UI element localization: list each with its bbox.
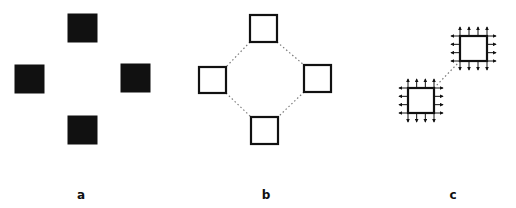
dotted-link <box>277 42 304 65</box>
filled-square <box>15 65 44 93</box>
outline-square <box>304 65 331 92</box>
panel-label-b: b <box>262 189 271 201</box>
dotted-link <box>226 93 251 117</box>
diagram-canvas <box>0 0 516 208</box>
outline-square <box>250 15 277 42</box>
filled-square <box>68 116 97 144</box>
panel-a-filled-squares <box>15 14 150 144</box>
outline-square <box>251 117 278 144</box>
panel-c-squares-with-arrows <box>399 27 496 122</box>
dotted-link <box>278 92 304 117</box>
panel-label-a: a <box>77 189 85 201</box>
filled-square <box>121 64 150 92</box>
outline-square <box>199 67 226 93</box>
panel-b-linked-squares <box>199 15 331 144</box>
filled-square <box>68 14 97 42</box>
outline-square <box>408 88 434 113</box>
dotted-link <box>434 61 460 88</box>
dotted-link <box>226 42 250 67</box>
outline-square <box>460 36 487 61</box>
panel-label-c: c <box>449 189 456 201</box>
